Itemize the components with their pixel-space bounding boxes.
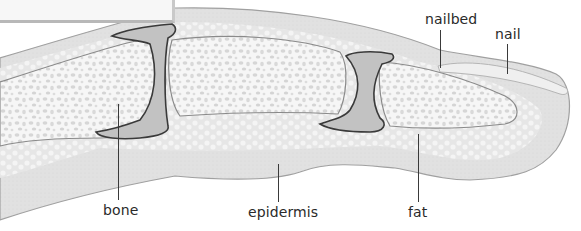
top-left-panel <box>0 0 175 23</box>
leader-fat <box>418 134 419 202</box>
label-epidermis: epidermis <box>248 205 318 219</box>
label-nailbed: nailbed <box>425 12 477 26</box>
leader-nailbed <box>440 30 441 68</box>
label-fat: fat <box>408 205 427 219</box>
label-nail: nail <box>495 27 521 41</box>
middle-phalanx <box>169 36 346 116</box>
finger-anatomy-diagram: nailbed nail bone epidermis fat <box>0 0 581 231</box>
finger-illustration <box>0 0 581 231</box>
label-bone: bone <box>103 203 138 217</box>
leader-nail <box>507 44 508 74</box>
leader-epidermis <box>278 164 279 202</box>
leader-bone <box>118 104 119 200</box>
